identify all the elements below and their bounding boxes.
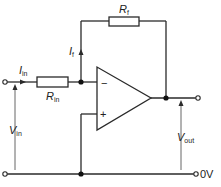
input-voltage-label: Vin (9, 124, 22, 137)
output-voltage-label: Vout (177, 131, 194, 144)
input-voltage-arrow-icon (13, 84, 18, 90)
input-terminal (3, 80, 7, 84)
feedback-resistor-label: Rf (119, 3, 129, 16)
output-ground-terminal (194, 172, 198, 176)
ground-label: 0V (200, 168, 214, 180)
ground-rail (3, 171, 198, 176)
ground-junction-node (78, 171, 83, 176)
feedback-resistor (109, 17, 139, 26)
output-terminal (196, 96, 200, 100)
op-amp: − + (97, 67, 151, 130)
output-path (151, 95, 200, 100)
input-path (3, 77, 97, 87)
noninverting-path (81, 114, 97, 174)
feedback-current-label: If (69, 45, 74, 58)
inverting-amplifier-diagram: Rf If Iin Rin − + 0V (0, 0, 221, 187)
input-current-arrow-icon (20, 80, 26, 85)
input-resistor (37, 77, 68, 87)
output-voltage-arrow-icon (179, 100, 184, 106)
output-junction-node (163, 95, 168, 100)
input-ground-terminal (3, 172, 7, 176)
feedback-current-arrow-icon (79, 49, 84, 55)
input-current-label: Iin (19, 64, 28, 77)
inverting-input-sign: − (101, 77, 107, 89)
noninverting-input-sign: + (100, 108, 106, 120)
input-resistor-label: Rin (46, 90, 60, 103)
inverting-junction-node (78, 79, 83, 84)
